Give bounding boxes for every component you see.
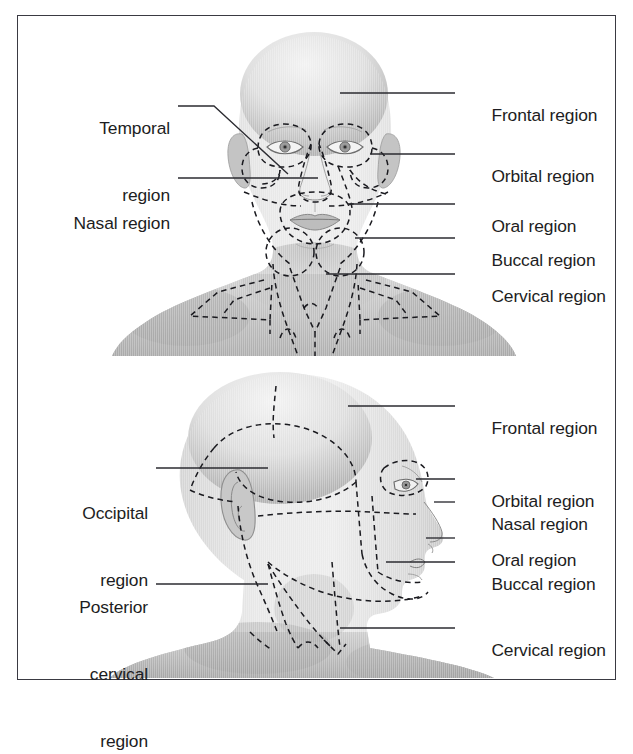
label-text: Frontal region (491, 418, 597, 438)
label-text: Buccal region (491, 574, 595, 594)
label-cervical-region-lateral: Cervical region (463, 617, 606, 684)
label-text-line3: region (18, 730, 148, 752)
label-buccal-region-lateral: Buccal region (463, 551, 595, 618)
figure-border-frame: Frontal region Orbital region Oral regio… (17, 15, 616, 680)
label-text-line1: Temporal (18, 117, 170, 139)
label-text-line2: cervical (18, 663, 148, 685)
label-frontal-region-anterior: Frontal region (463, 82, 597, 149)
label-text-line1: Posterior (18, 596, 148, 618)
lateral-view-panel: Frontal region Orbital region Nasal regi… (18, 356, 615, 678)
label-text-line1: Occipital (18, 502, 148, 524)
anterior-view-panel: Frontal region Orbital region Oral regio… (18, 16, 615, 356)
label-text: Cervical region (491, 640, 606, 660)
label-text: Cervical region (491, 286, 606, 306)
label-text-line1: Nasal region (18, 212, 170, 234)
label-frontal-region-lateral: Frontal region (463, 395, 597, 462)
label-cervical-region-anterior: Cervical region (463, 263, 606, 330)
label-text: Frontal region (491, 105, 597, 125)
label-nasal-region-anterior: Nasal region (18, 167, 170, 279)
label-posterior-cervical-region: Posterior cervical region (18, 551, 148, 754)
label-text: Orbital region (491, 166, 594, 186)
